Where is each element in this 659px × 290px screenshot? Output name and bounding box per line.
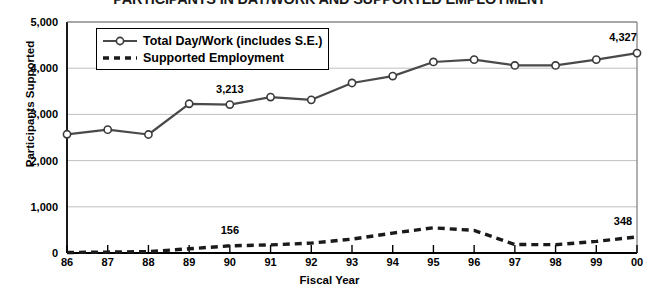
x-axis-tick-label: 94 <box>373 256 413 268</box>
x-axis-tick-label: 98 <box>536 256 576 268</box>
x-axis-tick-label: 89 <box>169 256 209 268</box>
x-axis-tick-label: 90 <box>210 256 250 268</box>
x-axis-tick-label: 91 <box>251 256 291 268</box>
legend-swatch-dashed-icon <box>102 51 138 65</box>
chart-container: PARTICIPANTS IN DAY/WORK AND SUPPORTED E… <box>0 0 659 290</box>
y-axis-tick-label: 2,000 <box>12 155 58 167</box>
x-axis-tick-label: 92 <box>291 256 331 268</box>
data-label: 3,213 <box>200 83 260 95</box>
y-axis-tick-labels: 01,0002,0003,0004,0005,000 <box>0 0 58 290</box>
x-axis-tick-label: 93 <box>332 256 372 268</box>
x-axis-tick-label: 97 <box>495 256 535 268</box>
data-label: 348 <box>593 215 653 227</box>
y-axis-tick-label: 4,000 <box>12 62 58 74</box>
y-axis-tick-label: 3,000 <box>12 108 58 120</box>
x-axis-tick-label: 95 <box>413 256 453 268</box>
x-axis-tick-label: 96 <box>454 256 494 268</box>
x-axis-tick-label: 99 <box>576 256 616 268</box>
y-axis-tick-label: 1,000 <box>12 201 58 213</box>
legend-label-supported-employment: Supported Employment <box>143 51 284 65</box>
legend-label-total-day-work: Total Day/Work (includes S.E.) <box>143 34 322 48</box>
x-axis-tick-label: 00 <box>617 256 657 268</box>
legend-item-total-day-work: Total Day/Work (includes S.E.) <box>102 32 322 49</box>
chart-title: PARTICIPANTS IN DAY/WORK AND SUPPORTED E… <box>0 0 659 7</box>
data-series-layer <box>63 49 640 252</box>
x-axis-tick-label: 88 <box>128 256 168 268</box>
legend-swatch-solid-marker-icon <box>102 34 138 48</box>
chart-legend: Total Day/Work (includes S.E.) Supported… <box>96 28 329 70</box>
x-axis-tick-label: 86 <box>47 256 87 268</box>
x-axis-tick-label: 87 <box>88 256 128 268</box>
data-label: 4,327 <box>593 31 653 43</box>
y-axis-tick-label: 5,000 <box>12 16 58 28</box>
data-label: 156 <box>200 224 260 236</box>
legend-item-supported-employment: Supported Employment <box>102 49 322 66</box>
x-axis-title: Fiscal Year <box>0 274 659 286</box>
